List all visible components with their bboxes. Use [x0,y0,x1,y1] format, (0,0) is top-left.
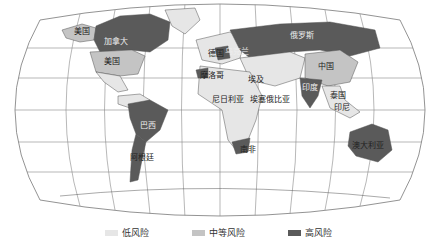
label-canada: 加拿大 [104,38,128,46]
label-argentina: 阿根廷 [130,154,154,162]
label-thailand: 泰国 [330,92,346,100]
label-germany: 德国 [208,50,224,58]
legend-item-high: 高风险 [288,226,332,239]
label-ukraine: 乌克兰 [225,48,249,56]
label-alaska: 美国 [74,28,90,36]
swatch-low [105,230,118,236]
label-russia: 俄罗斯 [290,32,314,40]
legend: 低风险 中等风险 高风险 [0,226,440,240]
swatch-medium [192,230,205,236]
label-brazil: 巴西 [140,122,156,130]
label-morocco: 摩洛哥 [200,72,224,80]
legend-label-high: 高风险 [305,226,332,239]
label-indonesia: 印尼 [334,104,350,112]
legend-item-medium: 中等风险 [192,226,245,239]
label-nigeria: 尼日利亚 [212,96,244,104]
legend-label-medium: 中等风险 [209,226,245,239]
label-australia: 澳大利亚 [352,142,384,150]
label-china: 中国 [318,63,334,71]
label-south-africa: 南非 [240,146,256,154]
swatch-high [288,230,301,236]
label-egypt: 埃及 [248,76,264,84]
label-ethiopia: 埃塞俄比亚 [250,96,290,104]
legend-item-low: 低风险 [105,226,149,239]
world-map [0,0,440,220]
label-india: 印度 [302,84,318,92]
legend-label-low: 低风险 [122,226,149,239]
label-usa: 美国 [104,58,120,66]
